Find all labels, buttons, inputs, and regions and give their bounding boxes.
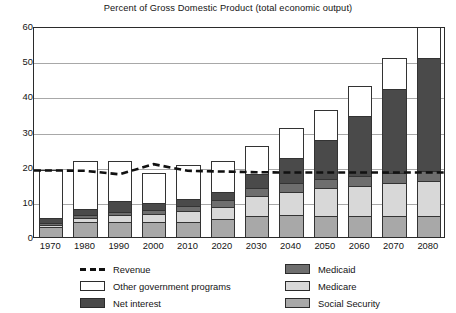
bar-segment-2050-net-interest xyxy=(314,140,338,180)
legend-item-revenue[interactable]: Revenue xyxy=(80,261,231,277)
bar-segment-2030-medicaid xyxy=(245,188,269,196)
plot-area xyxy=(33,27,445,238)
bar-segment-2000-other-government-programs xyxy=(142,173,166,203)
bar-segment-1970-medicare xyxy=(39,225,63,227)
y-tick-label-10: 10 xyxy=(5,197,33,208)
bar-segment-1990-medicaid xyxy=(108,212,132,215)
legend-column-left: RevenueOther government programsNet inte… xyxy=(80,261,231,312)
legend-swatch-darkest-gray-box xyxy=(80,298,105,308)
bar-segment-2080-net-interest xyxy=(417,58,441,171)
y-tick-label-50: 50 xyxy=(5,56,33,67)
bar-segment-2080-other-government-programs xyxy=(417,27,441,58)
bar-group-2040 xyxy=(279,27,303,237)
legend-label: Other government programs xyxy=(113,281,231,292)
bar-segment-2040-medicare xyxy=(279,192,303,215)
bar-segment-2000-net-interest xyxy=(142,203,166,211)
legend-swatch-medium-gray-box xyxy=(285,298,310,308)
legend-swatch-dashed-line xyxy=(80,264,105,274)
legend-label: Revenue xyxy=(113,264,151,275)
bar-segment-2060-social-security xyxy=(348,216,372,237)
bar-group-1980 xyxy=(73,27,97,237)
bar-segment-2010-net-interest xyxy=(176,199,200,205)
bar-segment-2040-medicaid xyxy=(279,183,303,192)
x-tick-label-2080: 2080 xyxy=(411,240,445,251)
bar-segment-2050-social-security xyxy=(314,216,338,237)
legend-item-social-security[interactable]: Social Security xyxy=(285,295,380,311)
bar-segment-2020-medicare xyxy=(211,207,235,219)
x-tick-label-2030: 2030 xyxy=(239,240,273,251)
bar-segment-1980-net-interest xyxy=(73,209,97,215)
bar-segment-2040-net-interest xyxy=(279,158,303,184)
bar-group-2010 xyxy=(176,27,200,237)
x-axis: 1970198019902000201020202030204020502060… xyxy=(33,240,445,254)
bar-segment-2070-medicaid xyxy=(382,173,406,183)
bar-segment-1970-net-interest xyxy=(39,218,63,223)
bar-segment-2070-other-government-programs xyxy=(382,58,406,89)
bar-segment-2010-social-security xyxy=(176,222,200,237)
bar-segment-2070-net-interest xyxy=(382,89,406,173)
x-tick-label-2070: 2070 xyxy=(376,240,410,251)
bar-group-2050 xyxy=(314,27,338,237)
bar-segment-2060-other-government-programs xyxy=(348,86,372,116)
bar-segment-2080-social-security xyxy=(417,216,441,237)
y-tick-label-40: 40 xyxy=(5,91,33,102)
bar-segment-2030-other-government-programs xyxy=(245,146,269,174)
bar-segment-2010-medicare xyxy=(176,211,200,222)
bar-segment-2050-medicare xyxy=(314,188,338,215)
bar-group-2070 xyxy=(382,27,406,237)
legend-swatch-light-gray-box xyxy=(285,281,310,291)
x-tick-label-2060: 2060 xyxy=(342,240,376,251)
bar-segment-2030-social-security xyxy=(245,216,269,237)
bar-segment-1990-net-interest xyxy=(108,201,132,212)
bar-segment-1980-other-government-programs xyxy=(73,161,97,209)
y-tick-label-0: 0 xyxy=(5,232,33,243)
bar-segment-2080-medicare xyxy=(417,181,441,215)
bar-segment-2080-medicaid xyxy=(417,171,441,182)
legend-swatch-dark-gray-box xyxy=(285,264,310,274)
bar-segment-1970-social-security xyxy=(39,227,63,237)
x-tick-label-2010: 2010 xyxy=(170,240,204,251)
y-tick-label-20: 20 xyxy=(5,162,33,173)
legend-column-right: MedicaidMedicareSocial Security xyxy=(285,261,380,312)
bar-segment-2040-social-security xyxy=(279,215,303,237)
legend-item-medicare[interactable]: Medicare xyxy=(285,278,380,294)
bar-segment-1990-social-security xyxy=(108,222,132,237)
bar-group-1970 xyxy=(39,27,63,237)
bar-segment-1990-other-government-programs xyxy=(108,161,132,202)
bar-segment-2040-other-government-programs xyxy=(279,128,303,158)
bar-group-2000 xyxy=(142,27,166,237)
bar-group-2030 xyxy=(245,27,269,237)
y-tick-label-60: 60 xyxy=(5,21,33,32)
x-tick-label-2020: 2020 xyxy=(205,240,239,251)
bar-group-1990 xyxy=(108,27,132,237)
bar-segment-2020-net-interest xyxy=(211,192,235,201)
bar-segment-1980-social-security xyxy=(73,222,97,237)
bar-segment-2030-net-interest xyxy=(245,174,269,188)
bar-segment-2060-net-interest xyxy=(348,116,372,176)
chart-title: Percent of Gross Domestic Product (total… xyxy=(0,3,456,13)
bar-segment-2010-medicaid xyxy=(176,206,200,212)
legend-item-other-government-programs[interactable]: Other government programs xyxy=(80,278,231,294)
bar-segment-1980-medicaid xyxy=(73,215,97,218)
bar-segment-2060-medicaid xyxy=(348,176,372,186)
x-tick-label-2050: 2050 xyxy=(308,240,342,251)
legend-item-net-interest[interactable]: Net interest xyxy=(80,295,231,311)
legend-item-medicaid[interactable]: Medicaid xyxy=(285,261,380,277)
bar-group-2080 xyxy=(417,27,441,237)
legend-swatch-white-box xyxy=(80,281,105,291)
y-tick-label-30: 30 xyxy=(5,127,33,138)
bar-segment-2020-other-government-programs xyxy=(211,161,235,192)
bar-segment-2060-medicare xyxy=(348,186,372,216)
x-tick-label-2040: 2040 xyxy=(273,240,307,251)
bar-segment-1980-medicare xyxy=(73,218,97,222)
x-tick-label-2000: 2000 xyxy=(136,240,170,251)
chart-container: Percent of Gross Domestic Product (total… xyxy=(0,0,456,313)
bar-group-2060 xyxy=(348,27,372,237)
bar-segment-1990-medicare xyxy=(108,215,132,222)
bar-segment-2000-medicare xyxy=(142,214,166,222)
legend-label: Medicaid xyxy=(318,264,356,275)
bar-segment-2070-social-security xyxy=(382,216,406,237)
legend-label: Social Security xyxy=(318,298,380,309)
bar-segment-2000-social-security xyxy=(142,222,166,237)
bar-segment-1970-other-government-programs xyxy=(39,170,63,218)
